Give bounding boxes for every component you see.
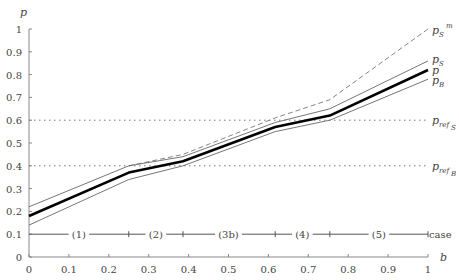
x-tick-label: 0.4 — [181, 264, 197, 275]
x-tick-label: 0.9 — [380, 264, 396, 275]
y-tick-label: 0.1 — [6, 229, 22, 240]
svg-text:B: B — [438, 81, 444, 89]
svg-text:p: p — [432, 74, 439, 87]
svg-text:m: m — [446, 22, 453, 30]
label-p-ref-b: p ref B — [432, 160, 456, 178]
y-tick-label: 0.4 — [6, 161, 22, 172]
x-tick-label: 1 — [425, 264, 431, 275]
label-p-s-m: p S m — [432, 22, 453, 39]
y-axis-label: p — [20, 6, 27, 19]
y-tick-label: 0.3 — [6, 184, 22, 195]
line-labels: p b p S m p S p p B p ref S p ref B — [20, 6, 456, 264]
x-tick-label: 0.5 — [221, 264, 237, 275]
case-label: case — [429, 229, 452, 240]
x-tick-label: 0.1 — [61, 264, 77, 275]
label-p-b: p B — [432, 74, 444, 89]
svg-text:p: p — [432, 24, 439, 37]
series-lines — [29, 29, 428, 225]
svg-text:ref: ref — [439, 167, 450, 175]
x-tick-label: 0.3 — [141, 264, 157, 275]
y-tick-label: 0.8 — [6, 70, 22, 81]
y-tick-label: 0.5 — [6, 138, 22, 149]
y-tick-label: 0 — [16, 252, 22, 263]
series-line-p-s — [29, 61, 428, 207]
x-tick-label: 0.8 — [340, 264, 356, 275]
case-segment-label: (2) — [149, 229, 163, 240]
svg-text:ref: ref — [439, 121, 450, 129]
svg-text:S: S — [439, 31, 444, 39]
x-tick-label: 0.2 — [101, 264, 117, 275]
series-line-p-s-m — [129, 29, 428, 166]
y-tick-label: 0.7 — [6, 92, 22, 103]
y-tick-label: 0.2 — [6, 206, 22, 217]
case-segment-label: (1) — [72, 229, 86, 240]
case-segment-label: (3b) — [218, 229, 239, 240]
svg-text:p: p — [432, 114, 439, 127]
svg-text:S: S — [439, 60, 444, 68]
x-axis-label: b — [440, 251, 447, 264]
case-segment-label: (4) — [295, 229, 309, 240]
y-tick-label: 1 — [16, 24, 22, 35]
label-p-ref-s: p ref S — [432, 114, 456, 132]
x-tick-label: 0 — [26, 264, 32, 275]
case-segment-label: (5) — [372, 229, 386, 240]
svg-text:p: p — [432, 160, 439, 173]
chart: 00.10.20.30.40.50.60.70.80.9100.10.20.30… — [0, 0, 459, 280]
y-tick-label: 0.6 — [6, 115, 22, 126]
case-line: (1)(2)(3b)(4)(5)case — [29, 228, 459, 240]
x-tick-label: 0.6 — [260, 264, 276, 275]
series-line-p — [29, 70, 428, 216]
x-tick-label: 0.7 — [300, 264, 316, 275]
series-line-p-b — [29, 79, 428, 225]
y-tick-label: 0.9 — [6, 47, 22, 58]
svg-text:S: S — [451, 124, 456, 132]
svg-text:B: B — [450, 170, 456, 178]
